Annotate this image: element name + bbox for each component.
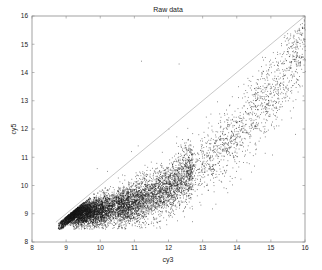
x-tick-label: 13 [199, 244, 207, 251]
y-tick-label: 15 [21, 41, 29, 48]
x-tick-label: 11 [131, 244, 138, 251]
y-tick-label: 13 [21, 97, 29, 104]
x-tick-label: 9 [64, 244, 68, 251]
scatter-points [58, 20, 306, 229]
reference-line [56, 16, 305, 222]
x-tick-label: 8 [30, 244, 34, 251]
x-tick-label: 16 [301, 244, 309, 251]
y-tick-label: 12 [21, 125, 29, 132]
y-tick-label: 8 [24, 238, 28, 245]
y-axis-label: cy5 [10, 123, 18, 134]
y-tick-label: 14 [21, 69, 29, 76]
scatter-figure: Raw data 8910111213141516 89101112131415… [0, 0, 322, 270]
y-tick-label: 9 [24, 210, 28, 217]
y-tick-label: 16 [21, 12, 29, 19]
x-tick-label: 10 [97, 244, 105, 251]
x-tick-label: 15 [267, 244, 275, 251]
x-tick-label: 14 [233, 244, 241, 251]
y-tick-label: 10 [21, 182, 29, 189]
x-axis-label: cy3 [163, 256, 174, 264]
y-tick-label: 11 [21, 154, 28, 161]
data-points [58, 20, 306, 229]
chart-title: Raw data [153, 6, 183, 13]
y-axis: 8910111213141516 [21, 12, 305, 245]
x-tick-label: 12 [165, 244, 173, 251]
